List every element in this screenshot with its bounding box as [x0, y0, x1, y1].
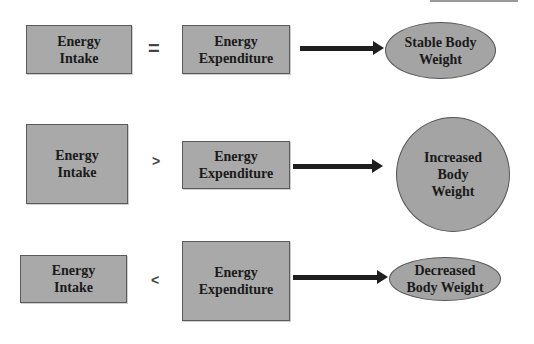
energy-intake-box: Energy Intake	[20, 255, 127, 303]
box-label: Energy	[55, 147, 99, 164]
right-arrow-icon	[293, 164, 373, 169]
energy-expenditure-box: Energy Expenditure	[182, 25, 290, 74]
box-label: Energy	[57, 33, 101, 50]
energy-expenditure-box: Energy Expenditure	[182, 241, 290, 321]
box-label: Expenditure	[199, 165, 273, 182]
result-decreased-weight: Decreased Body Weight	[389, 257, 501, 301]
equals-operator: =	[148, 37, 160, 60]
energy-intake-box: Energy Intake	[26, 124, 128, 204]
result-label: Weight	[419, 51, 462, 68]
result-label: Body Weight	[406, 279, 483, 296]
result-label: Decreased	[414, 262, 475, 279]
box-label: Energy	[214, 148, 258, 165]
box-label: Intake	[60, 50, 99, 67]
result-label: Increased	[424, 149, 482, 166]
right-arrow-icon	[293, 275, 378, 280]
box-label: Energy	[214, 264, 258, 281]
greater-than-operator: >	[152, 153, 160, 169]
box-label: Expenditure	[199, 281, 273, 298]
result-label: Weight	[432, 183, 475, 200]
result-label: Stable Body	[405, 34, 477, 51]
decorative-line	[430, 0, 518, 2]
right-arrow-icon	[300, 46, 374, 51]
result-increased-weight: Increased Body Weight	[396, 117, 510, 232]
box-label: Intake	[58, 164, 97, 181]
box-label: Energy	[52, 262, 96, 279]
box-label: Expenditure	[199, 50, 273, 67]
energy-intake-box: Energy Intake	[26, 25, 132, 74]
result-stable-weight: Stable Body Weight	[385, 22, 496, 79]
box-label: Energy	[214, 33, 258, 50]
result-label: Body	[437, 166, 468, 183]
energy-expenditure-box: Energy Expenditure	[182, 141, 290, 189]
box-label: Intake	[54, 279, 93, 296]
less-than-operator: <	[151, 272, 159, 288]
